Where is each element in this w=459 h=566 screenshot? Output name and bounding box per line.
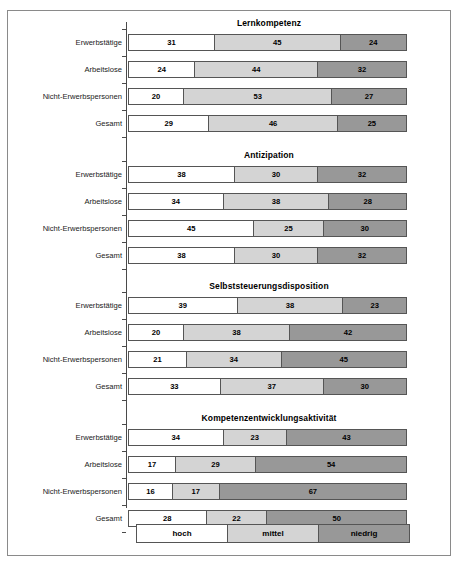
bar-segment-value: 25	[368, 119, 376, 128]
row-category-label: Erwerbstätige	[0, 429, 122, 446]
bar-segment-value: 30	[272, 170, 280, 179]
bar-segment-niedrig: 27	[331, 88, 407, 105]
axis-tick	[122, 137, 126, 138]
bar-segment-hoch: 31	[128, 34, 215, 51]
row-category-label: Erwerbstätige	[0, 166, 122, 183]
bar-segment-value: 31	[167, 38, 175, 47]
bar-segment-niedrig: 30	[323, 220, 407, 237]
bar-segment-hoch: 39	[128, 297, 238, 314]
bar-segment-hoch: 33	[128, 378, 221, 395]
bar-segment-value: 50	[333, 514, 341, 523]
bar-segment-mittel: 38	[237, 297, 344, 314]
chart-row: Arbeitslose343828	[0, 193, 459, 210]
row-category-label: Erwerbstätige	[0, 297, 122, 314]
stacked-bar: 213445	[128, 351, 409, 368]
bar-segment-value: 38	[232, 328, 240, 337]
bar-segment-mittel: 25	[253, 220, 323, 237]
bar-segment-value: 16	[146, 487, 154, 496]
row-category-label: Gesamt	[0, 378, 122, 395]
bar-segment-value: 23	[251, 433, 259, 442]
bar-segment-value: 44	[252, 65, 260, 74]
row-category-label: Gesamt	[0, 510, 122, 527]
row-category-label: Arbeitslose	[0, 324, 122, 341]
stacked-bar: 452530	[128, 220, 409, 237]
bar-segment-mittel: 30	[234, 166, 318, 183]
bar-segment-value: 38	[286, 301, 294, 310]
bar-segment-value: 27	[365, 92, 373, 101]
bar-segment-niedrig: 67	[219, 483, 407, 500]
axis-tick	[122, 319, 126, 320]
chart-figure: LernkompetenzErwerbstätige314524Arbeitsl…	[0, 0, 459, 566]
bar-segment-value: 54	[327, 460, 335, 469]
bar-segment-value: 30	[361, 382, 369, 391]
axis-tick	[122, 400, 126, 401]
axis-tick	[122, 110, 126, 111]
bar-segment-value: 25	[284, 224, 292, 233]
bar-segment-value: 22	[232, 514, 240, 523]
bar-segment-value: 17	[192, 487, 200, 496]
legend-item-label: mittel	[262, 529, 283, 538]
bar-segment-niedrig: 24	[340, 34, 407, 51]
bar-segment-mittel: 38	[223, 193, 330, 210]
bar-segment-value: 37	[267, 382, 275, 391]
panel-title: Selbststeuerungsdisposition	[128, 281, 410, 291]
bar-segment-hoch: 29	[128, 115, 209, 132]
bar-segment-mittel: 29	[175, 456, 256, 473]
bar-segment-value: 20	[152, 92, 160, 101]
stacked-bar: 393823	[128, 297, 409, 314]
bar-segment-value: 24	[157, 65, 165, 74]
axis-tick	[122, 242, 126, 243]
bar-segment-value: 67	[309, 487, 317, 496]
axis-tick	[122, 215, 126, 216]
chart-row: Nicht-Erwerbspersonen452530	[0, 220, 459, 237]
bar-segment-value: 45	[273, 38, 281, 47]
bar-segment-value: 21	[153, 355, 161, 364]
bar-segment-value: 38	[177, 251, 185, 260]
bar-segment-value: 32	[358, 251, 366, 260]
bar-segment-value: 32	[358, 170, 366, 179]
bar-segment-value: 34	[230, 355, 238, 364]
chart-row: Nicht-Erwerbspersonen205327	[0, 88, 459, 105]
bar-segment-value: 20	[152, 328, 160, 337]
bar-segment-mittel: 34	[186, 351, 282, 368]
axis-tick	[122, 505, 126, 506]
stacked-bar: 342343	[128, 429, 409, 446]
bar-segment-niedrig: 45	[281, 351, 407, 368]
bar-segment-value: 32	[358, 65, 366, 74]
stacked-bar: 294625	[128, 115, 409, 132]
bar-segment-niedrig: 43	[286, 429, 407, 446]
legend-item-niedrig: niedrig	[318, 524, 410, 543]
bar-segment-value: 24	[369, 38, 377, 47]
chart-row: Erwerbstätige393823	[0, 297, 459, 314]
axis-tick	[122, 532, 126, 533]
bar-segment-mittel: 30	[234, 247, 318, 264]
bar-segment-value: 45	[340, 355, 348, 364]
bar-segment-hoch: 21	[128, 351, 187, 368]
bar-segment-mittel: 37	[220, 378, 324, 395]
panel-title: Kompetenzentwicklungsaktivität	[128, 413, 410, 423]
bar-segment-niedrig: 32	[317, 247, 407, 264]
axis-tick	[122, 83, 126, 84]
bar-segment-mittel: 46	[208, 115, 337, 132]
bar-segment-value: 33	[170, 382, 178, 391]
bar-segment-value: 53	[253, 92, 261, 101]
bar-segment-value: 38	[272, 197, 280, 206]
bar-segment-niedrig: 25	[337, 115, 407, 132]
panel-title: Lernkompetenz	[128, 18, 410, 28]
stacked-bar: 343828	[128, 193, 409, 210]
bar-segment-mittel: 45	[214, 34, 340, 51]
bar-segment-value: 17	[148, 460, 156, 469]
bar-segment-value: 34	[172, 433, 180, 442]
bar-segment-mittel: 23	[223, 429, 288, 446]
bar-segment-mittel: 53	[183, 88, 332, 105]
bar-segment-value: 30	[272, 251, 280, 260]
chart-row: Gesamt383032	[0, 247, 459, 264]
bar-segment-hoch: 34	[128, 429, 224, 446]
bar-segment-value: 43	[342, 433, 350, 442]
chart-legend: hochmittelniedrig	[136, 524, 410, 543]
bar-segment-value: 45	[187, 224, 195, 233]
axis-tick	[122, 188, 126, 189]
row-category-label: Arbeitslose	[0, 61, 122, 78]
stacked-bar: 203842	[128, 324, 409, 341]
row-category-label: Nicht-Erwerbspersonen	[0, 483, 122, 500]
